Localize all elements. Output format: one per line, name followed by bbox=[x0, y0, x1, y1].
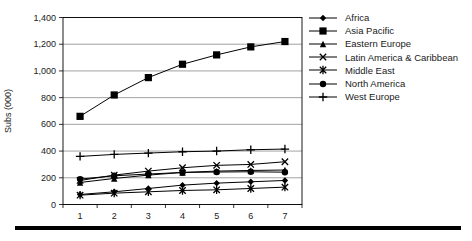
divider-rule bbox=[15, 226, 461, 230]
legend-label: Africa bbox=[345, 11, 369, 24]
legend-label: West Europe bbox=[345, 90, 400, 103]
y-tick-label: 200 bbox=[41, 173, 56, 183]
legend-item-africa: Africa bbox=[308, 11, 470, 24]
y-tick-label: 1,400 bbox=[33, 13, 56, 23]
legend-label: Asia Pacific bbox=[345, 24, 394, 37]
series-west-europe bbox=[76, 145, 289, 161]
legend-marker-plus-icon bbox=[308, 92, 338, 102]
legend-label: Eastern Europe bbox=[345, 37, 411, 50]
x-tick-label: 6 bbox=[248, 211, 253, 221]
series-asia-pacific bbox=[76, 38, 288, 120]
legend-label: Latin America & Caribbean bbox=[345, 51, 458, 64]
chart-legend: Africa Asia Pacific Eastern Europe Latin… bbox=[308, 11, 470, 103]
y-tick-label: 600 bbox=[41, 119, 56, 129]
legend-item-asia-pacific: Asia Pacific bbox=[308, 24, 470, 37]
legend-item-middle-east: Middle East bbox=[308, 64, 470, 77]
gridlines bbox=[59, 18, 302, 209]
chart-page: 02004006008001,0001,2001,4001234567Subs … bbox=[0, 0, 472, 241]
series-line-asia-pacific bbox=[80, 42, 285, 117]
legend-label: Middle East bbox=[345, 64, 395, 77]
x-tick-label: 2 bbox=[112, 211, 117, 221]
x-tick-label: 7 bbox=[282, 211, 287, 221]
x-tick-label: 5 bbox=[214, 211, 219, 221]
legend-item-eastern-europe: Eastern Europe bbox=[308, 37, 470, 50]
legend-marker-triangle-icon bbox=[308, 39, 338, 49]
y-tick-label: 400 bbox=[41, 146, 56, 156]
y-tick-label: 1,000 bbox=[33, 66, 56, 76]
legend-marker-x-icon bbox=[308, 52, 338, 62]
y-axis-title: Subs (000) bbox=[3, 89, 13, 133]
legend-marker-diamond-icon bbox=[308, 13, 338, 23]
y-tick-label: 1,200 bbox=[33, 39, 56, 49]
x-tick-label: 4 bbox=[180, 211, 185, 221]
x-tick-label: 3 bbox=[146, 211, 151, 221]
y-tick-label: 800 bbox=[41, 93, 56, 103]
legend-item-latin-america-caribbean: Latin America & Caribbean bbox=[308, 51, 470, 64]
legend-marker-circle-icon bbox=[308, 79, 338, 89]
y-tick-label: 0 bbox=[51, 200, 56, 210]
legend-marker-square-icon bbox=[308, 26, 338, 36]
legend-label: North America bbox=[345, 77, 405, 90]
plot-border bbox=[63, 18, 302, 205]
legend-marker-star-icon bbox=[308, 65, 338, 75]
legend-item-west-europe: West Europe bbox=[308, 90, 470, 103]
legend-item-north-america: North America bbox=[308, 77, 470, 90]
x-tick-label: 1 bbox=[78, 211, 83, 221]
